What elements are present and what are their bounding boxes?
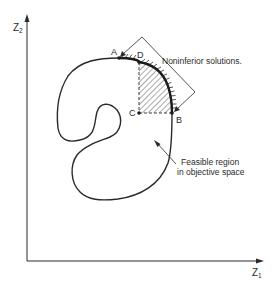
x-axis-label: Z1 (252, 267, 262, 279)
feasible-region-pointer (154, 140, 176, 164)
noninferior-label: Noninferior solutions. (162, 56, 242, 66)
point-a-label: A (111, 47, 117, 57)
x-axis (27, 259, 264, 264)
x-axis-arrow-icon (256, 259, 264, 264)
point-b (170, 111, 174, 115)
feasible-label-line1: Feasible region (181, 157, 239, 167)
y-axis (25, 14, 30, 261)
objective-space-diagram: Z2 Z1 A D C B (0, 0, 277, 287)
feasible-label-line2: in objective space (177, 167, 245, 177)
point-d-label: D (137, 50, 144, 60)
point-b-label: B (176, 115, 182, 125)
point-d (137, 60, 141, 64)
y-axis-arrow-icon (25, 14, 30, 22)
y-axis-label: Z2 (13, 22, 23, 34)
point-c (137, 111, 141, 115)
point-c-label: C (129, 108, 136, 118)
